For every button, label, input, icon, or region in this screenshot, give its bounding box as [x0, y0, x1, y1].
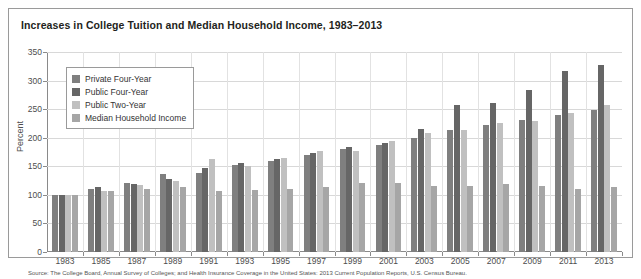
bar [526, 90, 532, 252]
x-axis-tick-mark [478, 252, 479, 256]
bar [555, 115, 561, 252]
x-axis-tick-label: 1999 [343, 256, 362, 266]
bar [395, 183, 401, 252]
y-axis-tick-label: 300 [28, 76, 42, 86]
legend-label-private-four-year: Private Four-Year [85, 74, 151, 84]
bar [575, 189, 581, 252]
bar [591, 110, 597, 252]
x-axis-tick-label: 1989 [163, 256, 182, 266]
page-title: Increases in College Tuition and Median … [21, 19, 382, 31]
bar-group: 2009 [514, 52, 550, 252]
bar-group: 1995 [263, 52, 299, 252]
bar [503, 184, 509, 252]
bar [287, 189, 293, 252]
bar [568, 113, 574, 252]
x-axis-tick-mark [550, 252, 551, 256]
bar-group: 2007 [478, 52, 514, 252]
bar [101, 191, 107, 252]
bar [238, 163, 244, 252]
legend: Private Four-Year Public Four-Year Publi… [66, 67, 194, 129]
legend-label-public-four-year: Public Four-Year [85, 87, 148, 97]
y-axis-tick-label: 100 [28, 190, 42, 200]
bar [72, 195, 78, 252]
bar [382, 143, 388, 252]
x-axis-tick-label: 2001 [379, 256, 398, 266]
bar [268, 161, 274, 252]
chart-figure: Increases in College Tuition and Median … [8, 8, 633, 258]
bar [376, 145, 382, 252]
bar [232, 165, 238, 252]
bar [353, 151, 359, 252]
legend-swatch-private-four-year [72, 75, 80, 83]
bar [359, 183, 365, 252]
bar [346, 147, 352, 252]
legend-item: Median Household Income [72, 111, 186, 124]
bar [52, 195, 58, 252]
y-axis-tick-label: 0 [37, 247, 42, 257]
bar-group: 1991 [191, 52, 227, 252]
x-axis-tick-label: 2007 [487, 256, 506, 266]
bar [340, 149, 346, 252]
bar [598, 65, 604, 252]
bar [196, 173, 202, 252]
bar [490, 103, 496, 252]
legend-label-median-household-income: Median Household Income [85, 113, 186, 123]
bar-group: 2003 [406, 52, 442, 252]
bar [418, 129, 424, 252]
x-axis-tick-mark [227, 252, 228, 256]
legend-swatch-public-four-year [72, 88, 80, 96]
legend-item: Private Four-Year [72, 72, 186, 85]
legend-item: Public Four-Year [72, 85, 186, 98]
x-axis-tick-label: 2011 [559, 256, 577, 266]
bar-group: 2013 [586, 52, 622, 252]
bar [124, 183, 130, 252]
bar [411, 138, 417, 252]
bar-group: 2001 [370, 52, 406, 252]
x-axis-tick-mark [442, 252, 443, 256]
x-axis-tick-mark [406, 252, 407, 256]
bar [304, 155, 310, 252]
bar [497, 123, 503, 252]
bar [467, 186, 473, 252]
bar [216, 191, 222, 252]
y-axis-tick-label: 250 [28, 104, 42, 114]
y-axis-tick-mark [43, 252, 47, 253]
bar [539, 186, 545, 252]
bar [160, 174, 166, 252]
bar [173, 181, 179, 252]
bar [95, 187, 101, 252]
bar [281, 158, 287, 252]
bar [447, 130, 453, 252]
bar [65, 195, 71, 252]
x-axis-tick-mark [119, 252, 120, 256]
bar [389, 141, 395, 252]
bar [59, 195, 65, 252]
bar-group: 1993 [227, 52, 263, 252]
bar [483, 125, 489, 252]
x-axis-tick-mark [586, 252, 587, 256]
x-axis-tick-label: 1991 [199, 256, 218, 266]
x-axis-tick-label: 1983 [56, 256, 75, 266]
x-axis-tick-mark [83, 252, 84, 256]
legend-item: Public Two-Year [72, 98, 186, 111]
x-axis-tick-label: 1993 [235, 256, 254, 266]
x-axis-tick-mark [263, 252, 264, 256]
x-axis-tick-mark [514, 252, 515, 256]
legend-swatch-median-household-income [72, 114, 80, 122]
source-note: Source: The College Board, Annual Survey… [28, 270, 628, 276]
bar [310, 153, 316, 252]
bar [131, 184, 137, 252]
bar [604, 105, 610, 252]
bar-group: 2005 [442, 52, 478, 252]
bar [144, 189, 150, 252]
x-axis-tick-label: 2003 [415, 256, 434, 266]
x-axis-tick-label: 1995 [271, 256, 290, 266]
bar [431, 186, 437, 252]
x-axis-tick-mark [370, 252, 371, 256]
x-axis-tick-label: 2013 [595, 256, 614, 266]
x-axis-tick-label: 2009 [523, 256, 542, 266]
bar-group: 1999 [335, 52, 371, 252]
y-axis-tick-label: 50 [33, 218, 42, 228]
bar [180, 187, 186, 252]
bar [454, 105, 460, 252]
